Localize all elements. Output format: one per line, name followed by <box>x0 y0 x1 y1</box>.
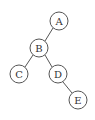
node-d-label: D <box>54 69 62 80</box>
edge-b-c <box>25 55 33 67</box>
edge-b-d <box>45 55 52 67</box>
node-b-label: B <box>35 43 42 54</box>
node-c: C <box>10 65 28 83</box>
node-b: B <box>30 39 48 57</box>
tree-diagram: A B C D E <box>0 0 95 120</box>
node-c-label: C <box>15 69 23 80</box>
node-a: A <box>50 12 68 30</box>
node-a-label: A <box>54 16 63 27</box>
node-e: E <box>69 91 87 109</box>
node-d: D <box>49 65 67 83</box>
edge-d-e <box>63 82 72 93</box>
node-e-label: E <box>74 95 81 106</box>
edge-a-b <box>45 28 53 41</box>
